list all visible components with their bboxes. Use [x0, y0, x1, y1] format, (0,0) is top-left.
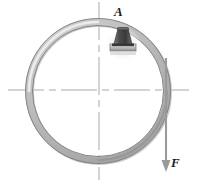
force-arrow-head [162, 160, 171, 172]
block-drop-shadow [110, 51, 136, 55]
label-force-f: F [171, 156, 180, 169]
ring-force-diagram: A F [0, 0, 197, 182]
ring-highlight [29, 22, 98, 91]
ring [26, 19, 171, 164]
centerlines [8, 2, 189, 180]
label-point-a: A [114, 5, 123, 18]
block-top-cap [118, 28, 129, 30]
diagram-canvas [0, 0, 197, 182]
